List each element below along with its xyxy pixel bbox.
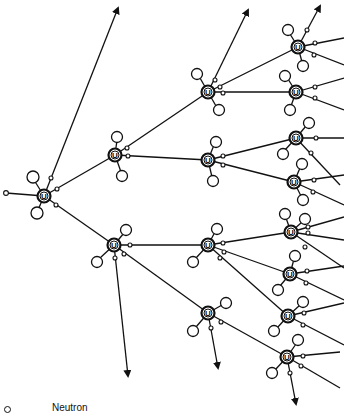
neutron-icon xyxy=(4,191,9,196)
fragment-icon xyxy=(278,149,289,160)
neutron-icon xyxy=(312,178,316,182)
uranium-nucleus-icon: U xyxy=(202,86,215,99)
fragment-icon xyxy=(280,209,291,220)
uranium-nucleus-icon: U xyxy=(109,149,122,162)
neutron-icon xyxy=(213,78,217,82)
fragment-icon xyxy=(112,132,123,143)
svg-text:U: U xyxy=(205,309,211,318)
neutron-icon xyxy=(125,146,129,150)
uranium-nucleus-icon: U xyxy=(202,239,215,252)
neutron-icon xyxy=(305,269,309,273)
fragment-icon xyxy=(273,285,284,296)
fragment-icon xyxy=(117,171,128,182)
svg-text:U: U xyxy=(293,134,299,143)
svg-text:U: U xyxy=(111,241,117,250)
neutron-icon xyxy=(299,364,303,368)
neutron-icon xyxy=(55,187,59,191)
neutron-path xyxy=(115,92,208,155)
neutron-icon xyxy=(304,281,308,285)
fragment-icon xyxy=(211,137,222,148)
fragment-icon xyxy=(300,214,311,225)
neutron-path xyxy=(287,357,340,388)
neutron-icon xyxy=(128,243,132,247)
fragment-icon xyxy=(31,207,43,219)
svg-text:U: U xyxy=(287,270,293,279)
neutron-legend-icon xyxy=(4,406,11,413)
fragment-icon xyxy=(214,105,225,116)
fragment-icon xyxy=(298,195,309,206)
neutron-icon xyxy=(219,320,223,324)
neutron-icon xyxy=(218,85,222,89)
neutron-icon xyxy=(54,203,58,207)
neutron-icon xyxy=(301,354,305,358)
neutron-icon xyxy=(209,326,213,330)
neutron-icon xyxy=(313,85,317,89)
svg-text:U: U xyxy=(205,156,211,165)
neutron-path xyxy=(287,352,340,357)
uranium-nucleus-icon: U xyxy=(282,310,295,323)
neutron-icon xyxy=(306,225,310,229)
svg-text:U: U xyxy=(295,43,301,52)
uranium-nucleus-icon: U xyxy=(288,176,301,189)
fragment-icon xyxy=(212,224,223,235)
fragment-icon xyxy=(283,25,294,36)
svg-text:U: U xyxy=(205,88,211,97)
uranium-nucleus-icon: U xyxy=(284,268,297,281)
neutron-icon xyxy=(301,323,305,327)
uranium-nucleus-icon: U xyxy=(38,190,51,203)
fragment-icon xyxy=(285,105,296,116)
neutron-icon xyxy=(313,41,317,45)
fragment-icon xyxy=(280,71,291,82)
fragment-icon xyxy=(290,251,301,262)
uranium-nucleus-icon: U xyxy=(202,154,215,167)
fragment-icon xyxy=(298,297,309,308)
neutron-icon xyxy=(288,371,292,375)
fragment-icon xyxy=(304,118,315,129)
neutron-path xyxy=(114,245,208,313)
fragment-icon xyxy=(208,176,219,187)
uranium-nucleus-icon: U xyxy=(290,86,303,99)
neutron-icon xyxy=(122,252,126,256)
neutron-icon xyxy=(221,241,225,245)
svg-text:U: U xyxy=(112,151,118,160)
svg-text:U: U xyxy=(284,353,290,362)
fragment-icon xyxy=(92,257,103,268)
fragment-icon xyxy=(297,159,308,170)
neutron-icon xyxy=(222,250,226,254)
fragment-icon xyxy=(27,171,39,183)
svg-text:U: U xyxy=(285,312,291,321)
fragment-icon xyxy=(121,225,132,236)
fragment-icon xyxy=(192,69,203,80)
neutron-path xyxy=(290,266,344,274)
uranium-nucleus-icon: U xyxy=(202,307,215,320)
uranium-nucleus-icon: U xyxy=(292,41,305,54)
neutron-icon xyxy=(49,176,53,180)
neutron-path xyxy=(114,245,128,376)
neutron-icon xyxy=(313,96,317,100)
neutron-icon xyxy=(303,245,307,249)
svg-text:U: U xyxy=(291,178,297,187)
neutron-icon xyxy=(221,154,225,158)
neutron-icon xyxy=(218,256,222,260)
fragment-icon xyxy=(298,61,309,72)
neutron-icon xyxy=(314,136,318,140)
neutron-path xyxy=(208,160,294,182)
legend: Neutron xyxy=(0,402,200,418)
neutron-path xyxy=(290,274,344,300)
neutron-icon xyxy=(306,231,310,235)
fragment-icon xyxy=(221,298,232,309)
neutron-icon xyxy=(302,311,306,315)
fragment-icon xyxy=(269,326,280,337)
neutron-icon xyxy=(221,163,225,167)
neutron-legend-label: Neutron xyxy=(52,402,88,413)
svg-text:U: U xyxy=(288,228,294,237)
uranium-nucleus-icon: U xyxy=(108,239,121,252)
neutron-icon xyxy=(305,28,309,32)
neutron-path xyxy=(291,232,344,268)
fragment-icon xyxy=(293,335,304,346)
uranium-nucleus-icon: U xyxy=(281,351,294,364)
neutron-icon xyxy=(311,190,315,194)
svg-text:U: U xyxy=(205,241,211,250)
uranium-nucleus-icon: U xyxy=(285,226,298,239)
svg-text:U: U xyxy=(293,88,299,97)
